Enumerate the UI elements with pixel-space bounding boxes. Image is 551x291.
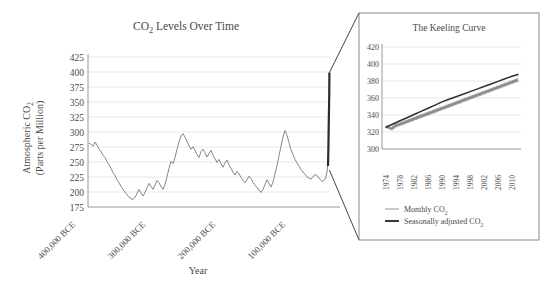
main-y-tick-375: 375 — [70, 83, 85, 93]
inset-x-tick-1974: 1974 — [382, 175, 391, 190]
inset-x-tick-2010: 2010 — [508, 175, 517, 190]
main-y-tick-275: 275 — [70, 143, 85, 153]
inset-y-tick-320: 320 — [367, 128, 379, 137]
inset-y-tick-400: 400 — [367, 60, 379, 69]
inset-x-tick-2006: 2006 — [494, 175, 503, 190]
legend-label-seasonally-adjusted: Seasonally adjusted CO2 — [404, 217, 483, 228]
inset-x-tick-1998: 1998 — [466, 175, 475, 190]
inset-x-tick-2002: 2002 — [480, 175, 489, 190]
main-y-tick-300: 300 — [70, 128, 85, 138]
inset-y-tick-360: 360 — [367, 94, 379, 103]
main-y-tick-250: 250 — [70, 158, 85, 168]
main-x-axis-title: Year — [189, 265, 208, 276]
inset-x-tick-1982: 1982 — [410, 175, 419, 190]
inset-x-tick-1986: 1986 — [424, 175, 433, 190]
main-y-tick-350: 350 — [70, 98, 85, 108]
main-y-axis-title: Atmospheric CO2 (Parts per Million) — [21, 101, 46, 175]
inset-y-tick-300: 300 — [367, 145, 379, 154]
inset-chart-title: The Keeling Curve — [413, 23, 486, 33]
inset-y-tick-380: 380 — [367, 77, 379, 86]
main-modern-spike — [328, 73, 329, 167]
legend-label-monthly: Monthly CO2 — [404, 205, 448, 216]
inset-y-tick-420: 420 — [367, 43, 379, 52]
main-y-tick-400: 400 — [70, 68, 85, 78]
inset-x-tick-1978: 1978 — [396, 175, 405, 190]
main-y-tick-175: 175 — [70, 203, 85, 213]
figure-co2-levels: CO2 Levels Over Time Atmospheric CO2 (Pa… — [0, 0, 551, 291]
inset-x-tick-1990: 1990 — [438, 175, 447, 190]
main-y-tick-200: 200 — [70, 188, 85, 198]
figure-canvas: CO2 Levels Over Time Atmospheric CO2 (Pa… — [0, 0, 551, 291]
main-y-tick-225: 225 — [70, 173, 85, 183]
main-y-tick-325: 325 — [70, 113, 85, 123]
inset-y-tick-340: 340 — [367, 111, 379, 120]
main-y-axis-title-line2: (Parts per Million) — [34, 101, 46, 175]
main-y-tick-425: 425 — [70, 53, 85, 63]
inset-x-tick-1994: 1994 — [452, 175, 461, 190]
main-y-tick-labels: 425 400 375 350 325 300 275 250 225 200 … — [70, 53, 85, 213]
